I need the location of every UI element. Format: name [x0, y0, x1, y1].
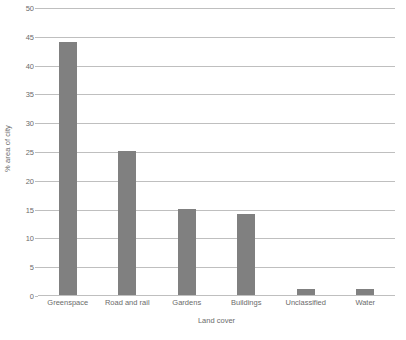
y-axis-tick-mark	[35, 296, 38, 297]
gridline	[38, 66, 395, 67]
x-axis-baseline	[38, 295, 395, 296]
x-axis-tick-label: Greenspace	[47, 298, 88, 307]
gridline	[38, 8, 395, 9]
x-axis-tick-label: Buildings	[231, 298, 261, 307]
y-axis-tick-label: 20	[26, 176, 34, 185]
x-axis-tick-label: Road and rail	[105, 298, 150, 307]
y-axis-tick-mark	[35, 123, 38, 124]
bar-chart: % area of city 05101520253035404550 Gree…	[0, 0, 406, 340]
y-axis-tick-label: 30	[26, 119, 34, 128]
bar[interactable]	[178, 209, 196, 295]
y-axis-tick-mark	[35, 210, 38, 211]
y-axis-tick-label: 40	[26, 61, 34, 70]
y-axis-tick-mark	[35, 66, 38, 67]
x-axis-tick-label: Water	[355, 298, 375, 307]
y-axis-title-label: % area of city	[3, 125, 12, 172]
y-axis-tick-label: 15	[26, 205, 34, 214]
bar[interactable]	[297, 289, 315, 295]
gridline	[38, 267, 395, 268]
gridline	[38, 94, 395, 95]
y-axis-tick-label: 45	[26, 32, 34, 41]
x-axis-tick-label: Unclassified	[286, 298, 326, 307]
y-axis-tick-label: 50	[26, 4, 34, 13]
y-axis-tick-label: 25	[26, 148, 34, 157]
bar[interactable]	[237, 214, 255, 295]
gridline	[38, 238, 395, 239]
y-axis-title: % area of city	[0, 0, 14, 296]
gridline	[38, 123, 395, 124]
y-axis-tick-mark	[35, 238, 38, 239]
bar[interactable]	[59, 42, 77, 295]
y-axis-tick-mark	[35, 8, 38, 9]
gridline	[38, 210, 395, 211]
y-axis-tick-label: 5	[30, 263, 34, 272]
y-axis-tick-mark	[35, 181, 38, 182]
y-axis-tick-mark	[35, 94, 38, 95]
plot-area	[38, 8, 395, 296]
x-axis-tick-labels: GreenspaceRoad and railGardensBuildingsU…	[38, 298, 395, 312]
bar[interactable]	[356, 289, 374, 295]
x-axis-tick-label: Gardens	[172, 298, 201, 307]
gridline	[38, 37, 395, 38]
bar[interactable]	[118, 151, 136, 295]
gridline	[38, 181, 395, 182]
y-axis-tick-label: 0	[30, 292, 34, 301]
y-axis-tick-mark	[35, 37, 38, 38]
x-axis-title: Land cover	[38, 316, 395, 325]
y-axis-tick-label: 10	[26, 234, 34, 243]
y-axis-tick-mark	[35, 267, 38, 268]
gridline	[38, 152, 395, 153]
y-axis-tick-mark	[35, 152, 38, 153]
y-axis-tick-label: 35	[26, 90, 34, 99]
